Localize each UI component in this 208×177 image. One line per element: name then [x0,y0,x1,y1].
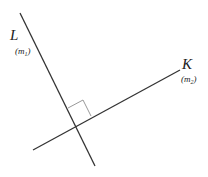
line-K [33,70,180,150]
line-L [20,13,95,166]
label-K: K [181,56,193,72]
slope-label-m2: (m2) [181,74,197,85]
right-angle-marker [68,100,91,116]
slope-label-m1: (m1) [15,46,31,57]
perpendicular-lines-diagram: L (m1) K (m2) [0,0,208,177]
label-L: L [9,27,18,43]
